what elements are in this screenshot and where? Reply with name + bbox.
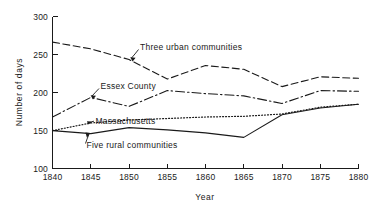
x-tick-label: 1855 — [157, 172, 177, 182]
x-tick-label: 1870 — [272, 172, 292, 182]
y-tick-label: 150 — [33, 126, 48, 136]
x-tick-label: 1865 — [234, 172, 254, 182]
x-axis-tick-labels: 1840 1845 1850 1855 1860 1865 1870 1875 … — [43, 172, 369, 182]
x-tick-label: 1880 — [349, 172, 369, 182]
x-tick-label: 1875 — [310, 172, 330, 182]
x-tick-label: 1860 — [196, 172, 216, 182]
annotation-massachusetts: Massachusetts — [87, 116, 155, 126]
series-label-five-rural-communities: Five rural communities — [87, 140, 178, 150]
y-tick-label: 200 — [33, 88, 48, 98]
series-label-three-urban-communities: Three urban communities — [140, 42, 242, 52]
y-tick-label: 300 — [33, 12, 48, 22]
series-label-massachusetts: Massachusetts — [96, 116, 156, 126]
x-tick-label: 1840 — [43, 172, 63, 182]
chart-figure: 100 150 200 250 300 1840 1845 1850 1855 … — [0, 0, 376, 209]
y-tick-label: 250 — [33, 50, 48, 60]
x-tick-label: 1850 — [119, 172, 139, 182]
y-axis-title: Number of days — [14, 58, 24, 126]
line-chart: 100 150 200 250 300 1840 1845 1850 1855 … — [0, 0, 376, 209]
x-tick-label: 1845 — [81, 172, 101, 182]
x-axis-title: Year — [195, 192, 215, 202]
series-label-essex-county: Essex County — [101, 81, 157, 91]
